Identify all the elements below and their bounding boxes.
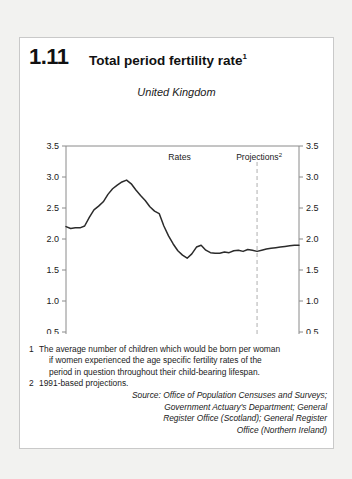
y-axis-label-left: 2.0 xyxy=(46,234,59,244)
y-axis-label-right: 2.5 xyxy=(306,203,319,213)
footnote-2: 2 1991-based projections. xyxy=(29,378,327,389)
footnote-1-line-3: period in question throughout their chil… xyxy=(39,367,260,378)
rates-annotation: Rates xyxy=(168,152,190,162)
page-title: Total period fertility rate1 xyxy=(89,47,247,71)
footnote-2-text: 1991-based projections. xyxy=(39,378,327,389)
source-line-3: Register Office (Scotland); General Regi… xyxy=(163,413,327,423)
y-axis-label-right: 3.0 xyxy=(306,172,319,182)
source-line-2: Government Actuary's Department; General xyxy=(164,402,327,412)
footnote-2-marker: 2 xyxy=(29,378,39,389)
y-axis-label-left: 3.0 xyxy=(46,172,59,182)
footnote-1-marker: 1 xyxy=(29,344,39,355)
fertility-rate-line xyxy=(66,180,299,258)
source-line-4: Office (Northern Ireland) xyxy=(237,425,327,435)
figure-number: 1.11 xyxy=(29,44,69,70)
footnote-1: 1 The average number of children which w… xyxy=(29,344,327,378)
y-axis-label-right: 1.0 xyxy=(306,296,319,306)
footnotes: 1 The average number of children which w… xyxy=(29,344,327,390)
chart-area: 000.50.51.01.01.51.52.02.02.52.53.03.03.… xyxy=(20,102,335,334)
chart-subtitle: United Kingdom xyxy=(20,86,333,98)
y-axis-label-right: 1.5 xyxy=(306,265,319,275)
y-axis-label-right: 0.5 xyxy=(306,327,319,334)
footnote-1-text: The average number of children which wou… xyxy=(39,344,327,378)
figure-header: 1.11 Total period fertility rate1 xyxy=(20,44,333,78)
page-background: 1.11 Total period fertility rate1 United… xyxy=(0,0,352,479)
fertility-rate-line-chart: 000.50.51.01.01.51.52.02.02.52.53.03.03.… xyxy=(20,102,335,334)
y-axis-label-left: 1.5 xyxy=(46,265,59,275)
y-axis-label-right: 2.0 xyxy=(306,234,319,244)
source-attribution: Source: Office of Population Censuses an… xyxy=(29,390,327,436)
y-axis-label-left: 1.0 xyxy=(46,296,59,306)
y-axis-label-right: 3.5 xyxy=(306,141,319,151)
y-axis-label-left: 2.5 xyxy=(46,203,59,213)
y-axis-label-left: 0.5 xyxy=(46,327,59,334)
figure-card: 1.11 Total period fertility rate1 United… xyxy=(19,37,334,449)
figure-title-text: Total period fertility rate xyxy=(89,53,243,68)
footnote-1-line-2: if women experienced the age specific fe… xyxy=(39,355,262,366)
y-axis-label-left: 3.5 xyxy=(46,141,59,151)
footnote-1-line-1: The average number of children which wou… xyxy=(39,344,280,354)
title-footnote-marker: 1 xyxy=(243,52,247,61)
source-line-1: Source: Office of Population Censuses an… xyxy=(132,390,327,400)
projections-annotation: Projections2 xyxy=(236,152,283,162)
